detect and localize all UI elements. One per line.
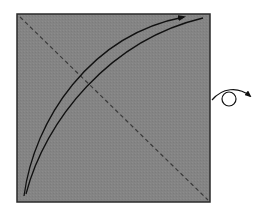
fold-diagram — [0, 0, 272, 215]
turn-over-icon — [212, 90, 250, 106]
